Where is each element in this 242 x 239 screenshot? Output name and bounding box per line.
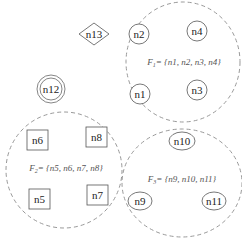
- cluster-f1: n2 n4 n1 n3 F1= {n1, n2, n3, n4}: [126, 2, 240, 122]
- cluster-f2: n6 n8 n5 n7 F2= {n5, n6, n7, n8}: [6, 112, 122, 228]
- node-n10[interactable]: n10: [169, 132, 195, 150]
- node-n4-label: n4: [192, 25, 204, 37]
- node-n12-label: n12: [43, 83, 60, 95]
- node-n5-label: n5: [34, 193, 46, 205]
- node-n4[interactable]: n4: [187, 21, 207, 41]
- node-n11[interactable]: n11: [202, 192, 226, 210]
- node-n2[interactable]: n2: [129, 24, 149, 44]
- node-n12[interactable]: n12: [37, 75, 65, 103]
- node-n13-label: n13: [86, 28, 103, 40]
- cluster-f3: n10 n9 n11 F3= {n9, n10, n11}: [122, 129, 242, 237]
- node-n9[interactable]: n9: [128, 192, 152, 210]
- node-n1[interactable]: n1: [130, 84, 150, 104]
- node-n6-label: n6: [32, 134, 44, 146]
- node-n7-label: n7: [92, 189, 104, 201]
- cluster-diagram: n2 n4 n1 n3 F1= {n1, n2, n3, n4} n13 n12: [0, 0, 242, 239]
- node-n1-label: n1: [135, 88, 146, 100]
- cluster-f2-label: F2= {n5, n6, n7, n8}: [28, 163, 103, 174]
- cluster-f1-label: F1= {n1, n2, n3, n4}: [146, 57, 221, 68]
- node-n11-label: n11: [206, 195, 222, 207]
- node-n7[interactable]: n7: [87, 185, 108, 205]
- node-n3[interactable]: n3: [187, 80, 207, 100]
- node-n9-label: n9: [135, 195, 147, 207]
- node-n2-label: n2: [134, 28, 145, 40]
- node-n8[interactable]: n8: [86, 127, 107, 147]
- node-n10-label: n10: [174, 135, 191, 147]
- node-n8-label: n8: [91, 131, 103, 143]
- cluster-f3-label: F3= {n9, n10, n11}: [147, 174, 217, 185]
- node-n6[interactable]: n6: [27, 130, 48, 150]
- node-n3-label: n3: [192, 84, 204, 96]
- node-n13[interactable]: n13: [79, 23, 109, 45]
- node-n5[interactable]: n5: [29, 189, 50, 209]
